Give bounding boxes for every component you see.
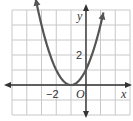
x-tick-label: −2 <box>46 88 59 100</box>
grid-lines <box>12 10 130 115</box>
coordinate-plane: y x O −2 2 <box>0 0 133 121</box>
parabola-curve <box>34 0 106 85</box>
x-axis-label: x <box>120 87 127 101</box>
y-axis-label: y <box>76 9 83 23</box>
origin-label: O <box>76 87 85 101</box>
axes <box>4 4 132 118</box>
y-axis-up-arrow-icon <box>83 4 89 11</box>
x-axis-left-arrow-icon <box>4 82 11 88</box>
parabola-path <box>36 0 104 85</box>
y-tick-label: 2 <box>76 49 82 61</box>
curve-arrow-icon <box>34 0 41 6</box>
